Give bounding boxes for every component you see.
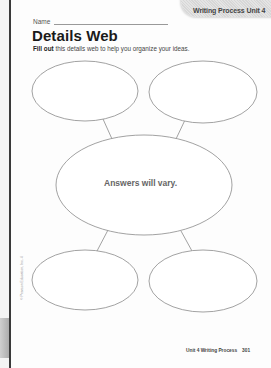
detail-bubble-bottom-left[interactable] (32, 250, 138, 310)
page-number: 301 (242, 348, 250, 353)
worksheet-page: Writing Process Unit 4 Name Details Web … (0, 0, 271, 368)
detail-bubble-bottom-right[interactable] (149, 250, 257, 312)
connector-bottom-left (97, 230, 108, 251)
detail-bubble-top-right[interactable] (149, 61, 257, 123)
footer-unit-label: Unit 4 Writing Process (186, 348, 237, 353)
center-answer-text: Answers will vary. (104, 178, 177, 188)
connector-bottom-right (181, 231, 192, 251)
detail-bubble-top-left[interactable] (32, 61, 138, 121)
page-footer: Unit 4 Writing Process301 (186, 348, 250, 353)
connector-top-right (176, 120, 185, 139)
copyright-note: © Pearson Education, Inc. 4 (20, 256, 24, 300)
connector-top-left (103, 119, 112, 139)
